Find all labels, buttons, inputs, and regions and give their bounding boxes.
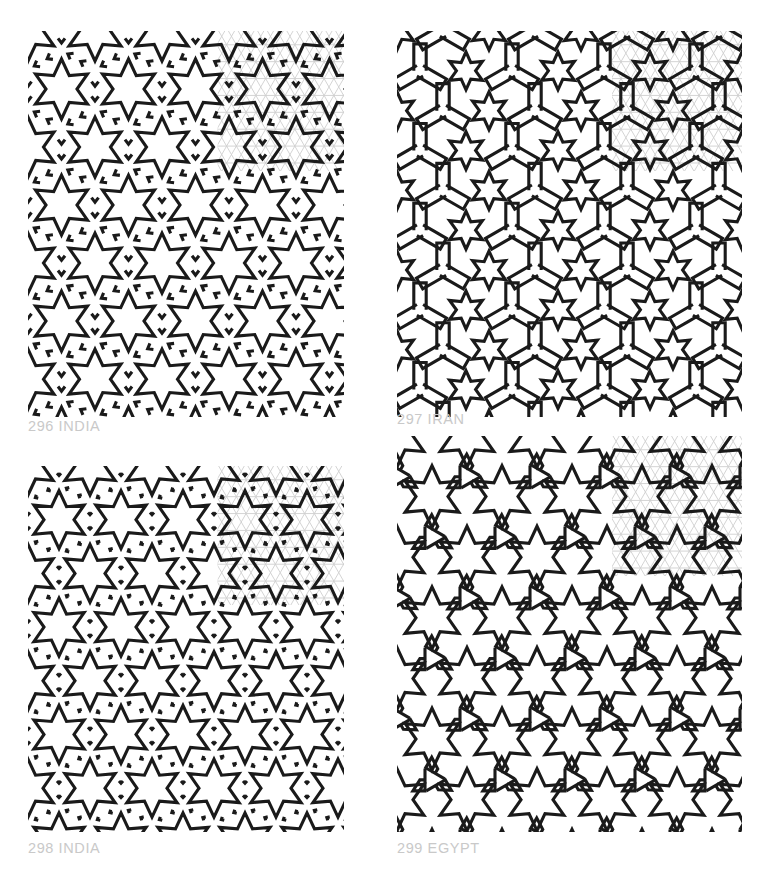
panel-label-296: 296 INDIA [28, 418, 100, 434]
pattern-lines [397, 31, 742, 417]
pattern-panel-298 [28, 466, 344, 832]
pattern-lines [28, 466, 344, 832]
pattern-plate-page: 296 INDIA 297 IRAN 298 INDIA 299 EGYPT [0, 0, 771, 888]
panel-label-299: 299 EGYPT [397, 840, 480, 856]
panel-label-297: 297 IRAN [397, 411, 465, 427]
pattern-svg [397, 436, 742, 832]
pattern-lines [28, 31, 344, 417]
pattern-panel-297 [397, 31, 742, 417]
triangular-grid-overlay [28, 31, 344, 191]
pattern-svg [28, 466, 344, 832]
pattern-svg [28, 31, 344, 417]
panel-label-298: 298 INDIA [28, 840, 100, 856]
pattern-svg [397, 31, 742, 417]
pattern-panel-299 [397, 436, 742, 832]
pattern-lines [397, 436, 742, 832]
pattern-panel-296 [28, 31, 344, 417]
